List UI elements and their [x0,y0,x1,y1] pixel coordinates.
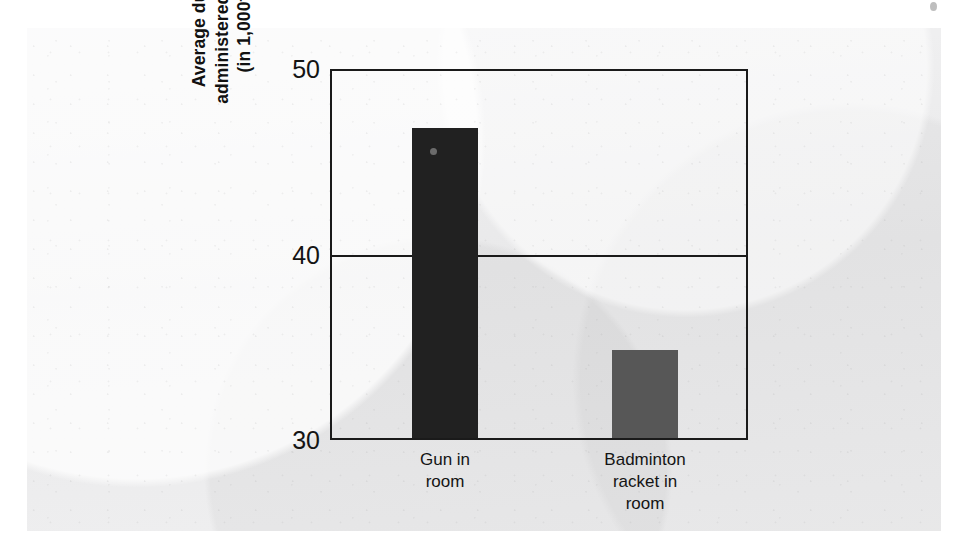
x-category-label-badminton-racket-in-room: Badminton racket in room [575,449,715,515]
x-category-badminton-line-3: room [575,493,715,515]
y-axis-title-line-1: Average duration of shocks [189,0,210,87]
x-category-label-gun-in-room: Gun in room [375,449,515,493]
x-category-badminton-line-2: racket in [575,471,715,493]
bar-badminton-racket-in-room [612,350,678,438]
y-axis-title-line-3: (in 1,000ths of a minute) [234,0,255,72]
scan-blemish [430,148,437,155]
figure-root: 50 40 30 Average duration of shocks admi… [0,0,968,559]
y-axis-title: Average duration of shocks administered … [179,0,265,156]
y-axis-title-line-2: administered by angry subjects [212,0,233,104]
y-tick-label-30: 30 [292,428,320,453]
y-tick-label-40: 40 [292,243,320,268]
y-tick-label-50: 50 [292,57,320,82]
y-axis-tick-labels: 50 40 30 [282,0,320,559]
plot-area [330,69,748,440]
x-category-gun-line-2: room [375,471,515,493]
gridline-40 [332,255,746,257]
page-scan-speck [930,2,937,11]
bar-gun-in-room [412,128,478,438]
x-category-gun-line-1: Gun in [375,449,515,471]
x-category-badminton-line-1: Badminton [575,449,715,471]
